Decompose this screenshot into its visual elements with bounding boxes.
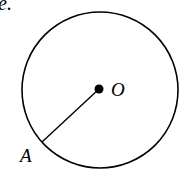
point-a-label: A xyxy=(18,145,32,166)
circle-diagram: e. O A xyxy=(0,0,192,177)
center-label: O xyxy=(111,79,125,100)
radius-segment xyxy=(42,89,99,142)
caption-fragment: e. xyxy=(0,0,12,14)
center-point xyxy=(95,85,104,94)
